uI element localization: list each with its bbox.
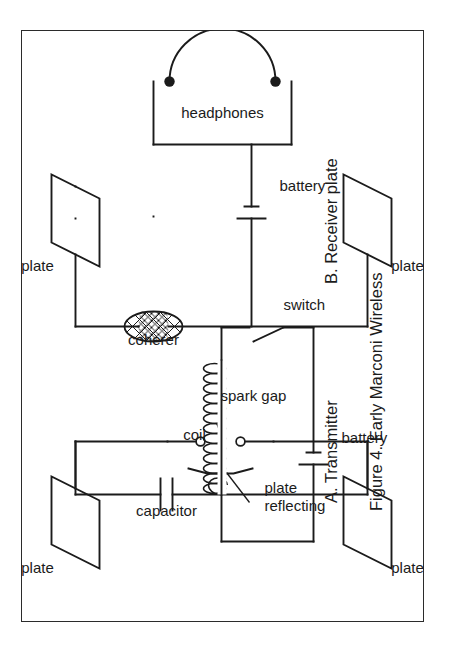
section-label-transmitter: A. Transmitter	[322, 400, 341, 503]
figure-caption-text: Figure 4. Early Marconi Wireless	[367, 273, 385, 511]
page-canvas: plate plate capacitor spark gap reflecti…	[0, 0, 466, 653]
section-label-receiver-text: B. Receiver plate	[322, 158, 340, 284]
figure-border: plate plate capacitor spark gap reflecti…	[21, 30, 424, 622]
figure-caption: Figure 4. Early Marconi Wireless	[367, 273, 386, 511]
caption-layer: A. Transmitter B. Receiver plate Figure …	[22, 31, 423, 621]
section-label-receiver: B. Receiver plate	[322, 158, 341, 284]
section-label-transmitter-text: A. Transmitter	[322, 400, 340, 503]
